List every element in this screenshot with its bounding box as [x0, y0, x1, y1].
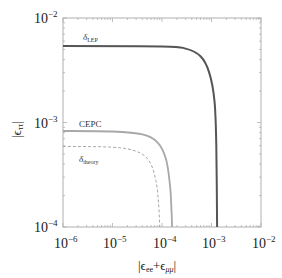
curve-delta-theory [63, 146, 160, 227]
svg-text:10−2: 10−2 [34, 9, 58, 26]
curve-cepc [63, 131, 172, 227]
svg-text:10−4: 10−4 [34, 218, 58, 235]
svg-text:10−6: 10−6 [54, 234, 78, 251]
x-axis-label: |ϵee+ϵμμ| [138, 258, 176, 274]
curve-delta-lep [63, 46, 217, 227]
label-delta-lep: δLEP [83, 32, 99, 43]
svg-text:10−3: 10−3 [202, 234, 226, 251]
chart: δLEP CEPC δtheory 10−6 10−5 10−4 10−3 10… [0, 0, 282, 278]
svg-text:10−4: 10−4 [153, 234, 177, 251]
x-tick-labels: 10−6 10−5 10−4 10−3 10−2 [54, 234, 276, 251]
label-delta-theory: δtheory [79, 154, 99, 165]
svg-text:10−2: 10−2 [252, 234, 276, 251]
y-axis-label: |ϵττ| [9, 121, 25, 138]
svg-text:10−3: 10−3 [34, 114, 58, 131]
svg-text:10−5: 10−5 [103, 234, 127, 251]
y-tick-labels: 10−4 10−3 10−2 [34, 9, 58, 235]
label-cepc: CEPC [79, 119, 102, 129]
